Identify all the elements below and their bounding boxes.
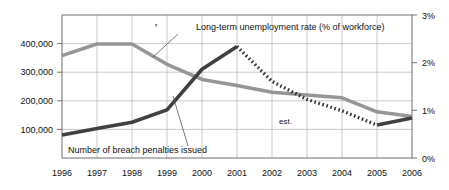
right-tick-label-0pct: 0% [422, 154, 435, 164]
x-tick-label-1997: 1997 [87, 168, 107, 178]
right-tick-label-3pct: 3% [422, 11, 435, 21]
dual-axis-line-chart: 400,000 300,000 200,000 100,000 3% 2% 1%… [0, 0, 449, 190]
left-tick-label-400000: 400,000 [20, 39, 53, 49]
right-tick-label-1pct: 1% [422, 106, 435, 116]
x-tick-label-2003: 2003 [297, 168, 317, 178]
x-axis-labels: 1996 1997 1998 1999 2000 2001 2002 2003 … [52, 168, 422, 178]
left-tick-label-300000: 300,000 [20, 67, 53, 77]
right-axis-ticks [412, 15, 417, 158]
x-tick-label-1998: 1998 [122, 168, 142, 178]
x-tick-label-2006: 2006 [402, 168, 422, 178]
x-tick-label-2005: 2005 [367, 168, 387, 178]
annotation-est-label: est. [279, 117, 292, 126]
annotation-penalties-label: Number of breach penalties issued [68, 145, 207, 155]
stray-dot-mark [155, 24, 157, 26]
x-tick-label-2002: 2002 [262, 168, 282, 178]
left-axis-ticks [57, 44, 62, 130]
right-tick-label-2pct: 2% [422, 58, 435, 68]
left-axis-labels: 400,000 300,000 200,000 100,000 [20, 39, 53, 135]
annotation-unemployment-label: Long-term unemployment rate (% of workfo… [196, 22, 385, 32]
x-tick-label-2000: 2000 [192, 168, 212, 178]
left-tick-label-100000: 100,000 [20, 125, 53, 135]
chart-canvas: 400,000 300,000 200,000 100,000 3% 2% 1%… [0, 0, 449, 190]
x-tick-label-1999: 1999 [157, 168, 177, 178]
x-tick-label-1996: 1996 [52, 168, 72, 178]
x-tick-label-2001: 2001 [227, 168, 247, 178]
x-tick-label-2004: 2004 [332, 168, 352, 178]
left-tick-label-200000: 200,000 [20, 96, 53, 106]
right-axis-labels: 3% 2% 1% 0% [422, 11, 435, 164]
